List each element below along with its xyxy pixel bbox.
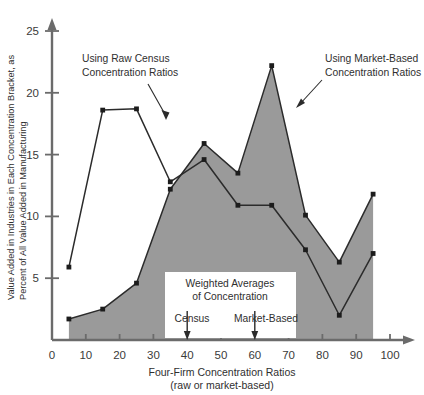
annotation-market-based: Using Market-Based Concentration Ratios — [296, 53, 421, 108]
x-tick-label: 100 — [380, 349, 399, 361]
data-point-marker — [202, 157, 207, 162]
data-point-marker — [371, 192, 376, 197]
y-axis-arrow — [48, 18, 57, 30]
x-tick-label: 10 — [79, 349, 92, 361]
data-point-marker — [337, 313, 342, 318]
x-tick-label: 20 — [113, 349, 126, 361]
inset-marker-label-census: Census — [175, 313, 210, 324]
y-tick-label: 15 — [26, 149, 39, 161]
x-tick-label: 30 — [147, 349, 160, 361]
data-point-marker — [168, 179, 173, 184]
data-point-marker — [236, 203, 241, 208]
y-tick-label: 25 — [26, 25, 39, 37]
inset-title-line1: Weighted Averages — [186, 278, 275, 289]
y-axis: 510152025 — [26, 18, 59, 340]
data-point-marker — [371, 251, 376, 256]
x-axis-title: Four-Firm Concentration Ratios (raw or m… — [148, 366, 295, 391]
x-tick-label: 0 — [49, 349, 55, 361]
x-tick-label: 60 — [248, 349, 261, 361]
inset-title-line2: of Concentration — [192, 291, 268, 302]
y-tick-label: 20 — [26, 87, 39, 99]
inset-legend-box: Weighted Averages of Concentration Censu… — [165, 272, 298, 340]
data-point-marker — [303, 247, 308, 252]
data-point-marker — [269, 203, 274, 208]
annotation-raw-census: Using Raw Census Concentration Ratios — [82, 53, 178, 120]
annotation-market-leader — [300, 80, 322, 104]
annotation-census-line2: Concentration Ratios — [82, 67, 178, 78]
y-axis-title-line1: Value Added in Industries in Each Concen… — [6, 55, 16, 300]
chart-container: 510152025 0102030405060708090100 Weighte… — [0, 0, 424, 395]
x-axis-arrow — [403, 336, 415, 345]
y-axis-title-line2: Percent of All Value Added in Manufactur… — [18, 121, 28, 300]
data-point-marker — [67, 265, 72, 270]
data-point-marker — [337, 260, 342, 265]
annotation-market-line1: Using Market-Based — [325, 53, 419, 64]
x-tick-label: 80 — [316, 349, 329, 361]
data-point-marker — [202, 141, 207, 146]
y-tick-label: 5 — [33, 272, 39, 284]
data-point-marker — [269, 63, 274, 68]
annotation-market-line2: Concentration Ratios — [325, 67, 421, 78]
y-axis-title: Value Added in Industries in Each Concen… — [6, 55, 28, 300]
x-tick-label: 40 — [181, 349, 194, 361]
annotation-census-line1: Using Raw Census — [82, 53, 170, 64]
inset-marker-label-market-based: Market-Based — [234, 313, 298, 324]
x-axis-title-sub: (raw or market-based) — [170, 379, 273, 391]
annotation-census-arrowhead — [162, 110, 170, 120]
y-tick-label: 10 — [26, 210, 39, 222]
x-tick-label: 50 — [215, 349, 228, 361]
data-point-marker — [134, 281, 139, 286]
data-point-marker — [303, 213, 308, 218]
concentration-ratio-chart: 510152025 0102030405060708090100 Weighte… — [0, 0, 424, 395]
data-point-marker — [67, 317, 72, 322]
y-tick-group: 510152025 — [26, 25, 59, 284]
x-axis-title-main: Four-Firm Concentration Ratios — [148, 366, 295, 378]
x-tick-label: 70 — [282, 349, 295, 361]
data-point-marker — [236, 171, 241, 176]
x-tick-label: 90 — [350, 349, 363, 361]
data-point-marker — [134, 106, 139, 111]
data-point-marker — [100, 307, 105, 312]
data-point-marker — [168, 187, 173, 192]
data-point-marker — [100, 108, 105, 113]
